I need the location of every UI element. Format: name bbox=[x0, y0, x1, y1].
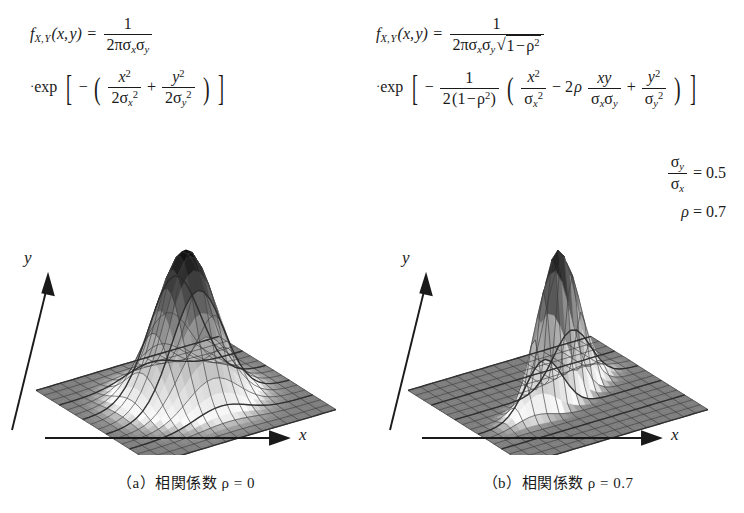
panel-b: fX, Y (x, y) = 12πσxσy 1 − ρ2 ·exp [ − 1… bbox=[372, 0, 744, 513]
formula-a-line2: ·exp [ − ( x22σx2 + y22σy2 ) ] bbox=[30, 67, 227, 110]
axis-arrow-y-b bbox=[372, 155, 744, 455]
axis-arrow-x-b bbox=[372, 420, 744, 460]
axis-arrow-y-a bbox=[0, 155, 372, 455]
axis-label-x-b: x bbox=[671, 425, 679, 445]
caption-b: （b）相関係数 ρ = 0.7 bbox=[372, 471, 744, 492]
axis-arrow-x-a bbox=[0, 420, 372, 460]
formula-b: fX, Y (x, y) = 12πσxσy 1 − ρ2 ·exp [ − 1… bbox=[376, 14, 699, 111]
axis-label-x-a: x bbox=[299, 425, 307, 445]
panel-a: fX, Y (x, y) = 12πσxσy ·exp [ − ( x22σx2… bbox=[0, 0, 372, 513]
caption-a: （a）相関係数 ρ = 0 bbox=[0, 471, 372, 492]
formula-a-line1: fX, Y (x, y) = 12πσxσy bbox=[30, 14, 227, 57]
formula-a: fX, Y (x, y) = 12πσxσy ·exp [ − ( x22σx2… bbox=[30, 14, 227, 110]
formula-b-line2: ·exp [ − 12 (1 − ρ2) ( x2σx2 − 2 ρ xyσxσ… bbox=[376, 67, 699, 110]
formula-b-line1: fX, Y (x, y) = 12πσxσy 1 − ρ2 bbox=[376, 14, 699, 57]
